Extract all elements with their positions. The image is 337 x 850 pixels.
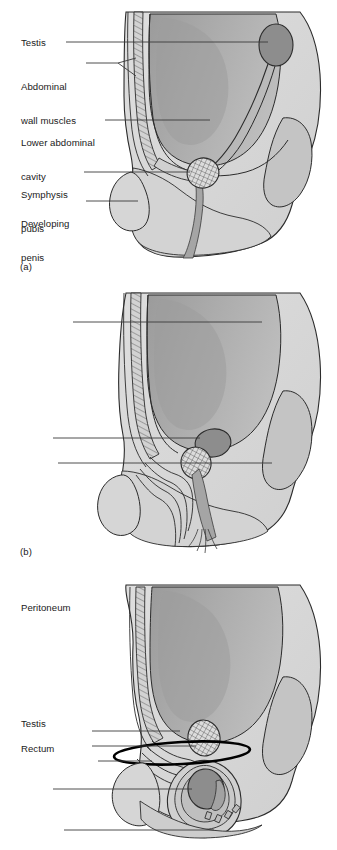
- panel-caption-b: (b): [20, 546, 32, 557]
- developing-penis-shape: [98, 475, 141, 536]
- panel-c: Inguinal canal Vas deferens Spermatic co…: [0, 565, 337, 850]
- panel-caption-a: (a): [20, 261, 32, 272]
- label-line-1: Abdominal: [21, 81, 76, 92]
- testis-shape: [259, 24, 293, 66]
- label-testis: Testis: [21, 37, 46, 48]
- figure-root: Testis Abdominal wall muscles Lower abdo…: [0, 0, 337, 850]
- label-line-1: Developing: [21, 218, 70, 229]
- panel-c-illustration: [0, 565, 337, 850]
- label-developing-penis: Developing penis: [21, 195, 70, 286]
- panel-a: Testis Abdominal wall muscles Lower abdo…: [0, 0, 337, 285]
- panel-b-illustration: [0, 285, 337, 570]
- label-line-1: Lower abdominal: [21, 137, 95, 148]
- panel-b: Peritoneum Testis Rectum (b): [0, 285, 337, 570]
